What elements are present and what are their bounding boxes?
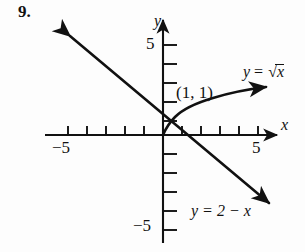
figure-container: 9. bbox=[0, 0, 305, 252]
x-axis-label: x bbox=[281, 116, 288, 134]
y-tick-label-minus-5: −5 bbox=[133, 216, 151, 236]
y-tick-label-5: 5 bbox=[146, 34, 155, 54]
y-axis-ticks bbox=[163, 45, 177, 230]
sqrt-label-equals: = bbox=[254, 63, 263, 80]
radical-sign: √ bbox=[268, 63, 277, 80]
line-curve-label: y = 2 − x bbox=[191, 202, 251, 220]
intersection-point-label: (1, 1) bbox=[176, 83, 213, 103]
sqrt-label-arg: x bbox=[277, 63, 284, 80]
radical-icon: √x bbox=[267, 63, 284, 81]
y-axis-label: y bbox=[154, 12, 161, 30]
sqrt-curve-label: y = √x bbox=[243, 63, 284, 81]
problem-number: 9. bbox=[18, 2, 31, 22]
sqrt-label-lhs: y bbox=[243, 63, 250, 80]
radical-overbar bbox=[275, 64, 284, 65]
x-tick-label-minus-5: −5 bbox=[52, 138, 70, 158]
x-tick-label-5: 5 bbox=[252, 138, 261, 158]
x-axis bbox=[45, 126, 277, 135]
line-curve-y-equals-2-minus-x bbox=[70, 36, 269, 203]
